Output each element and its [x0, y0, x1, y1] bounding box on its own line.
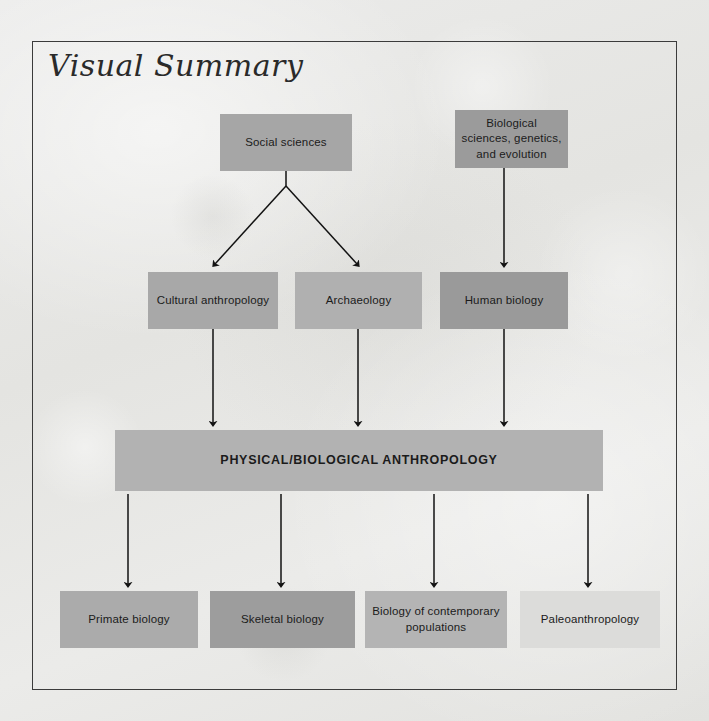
- node-social-sciences[interactable]: Social sciences: [220, 114, 352, 171]
- node-archaeology[interactable]: Archaeology: [295, 272, 422, 329]
- node-primate-biology[interactable]: Primate biology: [60, 591, 198, 648]
- node-paleoanthropology[interactable]: Paleoanthropology: [520, 591, 660, 648]
- node-biology-contemporary-populations[interactable]: Biology of contemporary populations: [365, 591, 507, 648]
- visual-summary-page: Visual Summary Social sciences Biologica…: [0, 0, 709, 721]
- node-biological-sciences[interactable]: Biological sciences, genetics, and evolu…: [455, 110, 568, 168]
- node-cultural-anthropology[interactable]: Cultural anthropology: [148, 272, 278, 329]
- node-human-biology[interactable]: Human biology: [440, 272, 568, 329]
- page-title: Visual Summary: [48, 48, 303, 83]
- node-physical-biological-anthropology[interactable]: PHYSICAL/BIOLOGICAL ANTHROPOLOGY: [115, 430, 603, 491]
- node-skeletal-biology[interactable]: Skeletal biology: [210, 591, 355, 648]
